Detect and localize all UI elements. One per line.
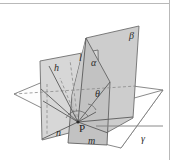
line-label-n: n	[56, 127, 61, 138]
point-label-p: P	[79, 122, 85, 134]
plane-label-beta: β	[128, 30, 134, 41]
plane-label-alpha: α	[91, 57, 97, 68]
angle-label-theta: θ	[95, 88, 100, 99]
geometry-figure-container: β α γ l h θ n m P	[0, 0, 174, 160]
geometry-diagram: β α γ l h θ n m P	[0, 0, 174, 160]
line-label-m: m	[88, 135, 95, 146]
line-label-h: h	[54, 62, 59, 73]
line-label-l: l	[79, 52, 82, 63]
